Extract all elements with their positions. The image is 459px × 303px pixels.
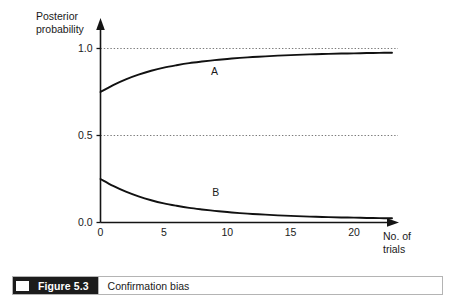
x-axis-title-line-2: trials bbox=[383, 243, 405, 255]
x-axis-title-line-1: No. of bbox=[383, 230, 411, 242]
axes-group bbox=[96, 18, 399, 227]
y-tick-label: 0.0 bbox=[78, 216, 93, 228]
y-axis-title-line-2: probability bbox=[36, 23, 85, 35]
x-tick-label: 0 bbox=[98, 226, 104, 238]
y-axis-title: Posterior probability bbox=[36, 10, 85, 35]
y-tick-label: 0.5 bbox=[78, 129, 93, 141]
y-axis-arrow-icon bbox=[96, 18, 105, 30]
x-tick-label: 10 bbox=[221, 226, 233, 238]
series-label-a: A bbox=[211, 65, 218, 77]
x-tick-label: 20 bbox=[348, 226, 360, 238]
chart-svg: 0.0 0.5 1.0 0 5 10 15 20 Posterior proba… bbox=[0, 0, 459, 265]
figure-caption-bar: Figure 5.3 Confirmation bias bbox=[12, 276, 443, 295]
caption-notch-square-icon bbox=[16, 281, 29, 291]
figure-number-label: Figure 5.3 bbox=[38, 280, 89, 292]
gridlines-group bbox=[101, 49, 399, 136]
x-tick-label: 5 bbox=[161, 226, 167, 238]
x-tick-labels: 0 5 10 15 20 bbox=[98, 226, 360, 238]
series-curve-b bbox=[101, 179, 393, 218]
y-tick-label: 1.0 bbox=[78, 42, 93, 54]
x-tick-label: 15 bbox=[285, 226, 297, 238]
chart-plot-area: 0.0 0.5 1.0 0 5 10 15 20 Posterior proba… bbox=[0, 0, 459, 265]
figure-caption-text: Confirmation bias bbox=[99, 277, 190, 294]
figure-number-tag: Figure 5.3 bbox=[13, 277, 98, 294]
figure-container: 0.0 0.5 1.0 0 5 10 15 20 Posterior proba… bbox=[0, 0, 459, 303]
series-label-b: B bbox=[212, 186, 219, 198]
y-tick-labels: 0.0 0.5 1.0 bbox=[78, 42, 93, 228]
x-axis-title: No. of trials bbox=[383, 230, 411, 255]
series-labels: A B bbox=[211, 65, 219, 197]
x-axis-arrow-icon bbox=[387, 218, 399, 227]
series-curve-a bbox=[101, 53, 393, 92]
y-axis-title-line-1: Posterior bbox=[36, 10, 79, 22]
